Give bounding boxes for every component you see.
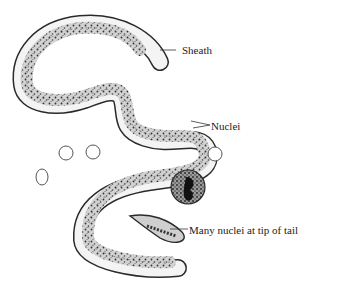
red-cell-1	[59, 146, 73, 160]
label-sheath: Sheath	[182, 44, 212, 56]
microfilaria-diagram	[0, 0, 343, 285]
label-nuclei: Nuclei	[211, 120, 240, 132]
red-cell-4	[208, 147, 222, 161]
red-cell-2	[86, 145, 100, 159]
diagram-stage: Sheath Nuclei Many nuclei at tip of tail	[0, 0, 343, 285]
red-cell-3	[36, 169, 48, 185]
label-tail-nuclei: Many nuclei at tip of tail	[189, 224, 298, 236]
nuclei-leader-1	[191, 121, 210, 125]
nuclei-leader-2	[193, 125, 210, 128]
